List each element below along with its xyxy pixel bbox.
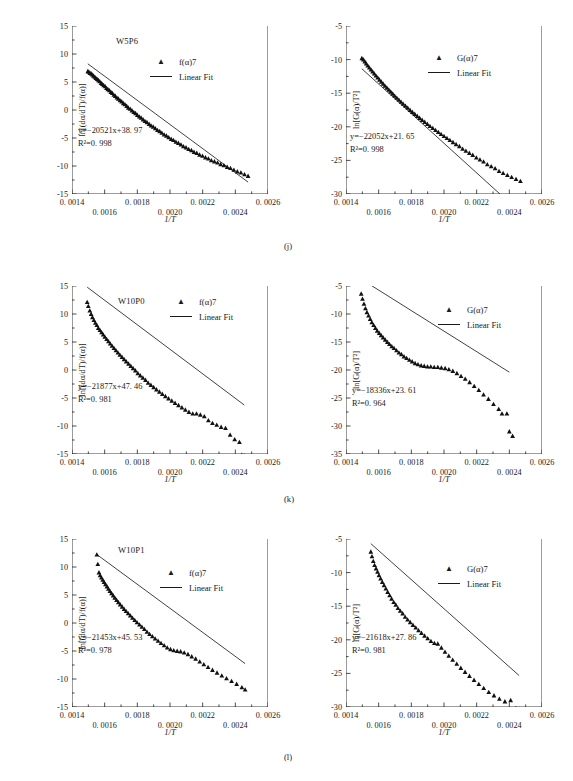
- x-tick-label: 0. 0022: [190, 711, 215, 720]
- legend-label-fit: Linear Fit: [179, 72, 213, 82]
- legend-label-fit: Linear Fit: [467, 579, 501, 589]
- figure-kinetics-plots: ln[(dα/dT)/f(α)] 1/T W5P6 ▲ f(α)7 Linear…: [0, 0, 573, 781]
- sample-label: W10P0: [118, 296, 145, 306]
- plot-area: ln[G(α)/T²] 1/T ▲ G(α)7 Linear Fit y=−18…: [346, 286, 542, 454]
- x-tick-label: 0. 0018: [125, 198, 150, 207]
- legend-item-fit: Linear Fit: [428, 65, 491, 80]
- y-tick-label: -25: [331, 394, 342, 403]
- sample-label: W5P6: [116, 36, 138, 46]
- y-axis-label: ln[(dα/dT)/f(α)]: [78, 26, 92, 194]
- y-tick-label: -5: [61, 647, 68, 656]
- legend-item-fit: Linear Fit: [438, 576, 501, 591]
- x-tick-label: 0. 0022: [464, 458, 489, 467]
- y-axis-label: ln[(dα/dT)/f(α)]: [78, 286, 92, 454]
- legend: ▲ G(α)7 Linear Fit: [438, 302, 501, 332]
- triangle-marker-icon: ▲: [438, 306, 460, 314]
- panel-j-left: ln[(dα/dT)/f(α)] 1/T W5P6 ▲ f(α)7 Linear…: [16, 12, 286, 262]
- line-swatch-icon: [438, 583, 460, 584]
- x-tick-label: 0. 0014: [60, 711, 85, 720]
- triangle-marker-icon: ▲: [428, 54, 450, 62]
- fit-equation: y=−22052x+21. 65: [350, 130, 414, 143]
- plot-area: ln[(dα/dT)/f(α)] 1/T W10P0 ▲ f(α)7 Linea…: [72, 286, 268, 454]
- plot-area: ln[(dα/dT)/f(α)] 1/T W10P1 ▲ f(α)7 Linea…: [72, 539, 268, 707]
- legend-label-fit: Linear Fit: [467, 320, 501, 330]
- x-tick-label: 0. 0022: [464, 711, 489, 720]
- y-tick-label: -10: [57, 675, 68, 684]
- legend: ▲ f(α)7 Linear Fit: [160, 565, 223, 595]
- y-tick-label: -10: [331, 310, 342, 319]
- panel-caption-l: (l): [284, 752, 292, 762]
- y-tick-label: 5: [64, 591, 68, 600]
- y-tick-label: -10: [57, 422, 68, 431]
- x-tick-label: 0. 0016: [366, 468, 391, 477]
- plot-area: ln[G(α)/T²] 1/T ▲ G(α)7 Linear Fit y=−22…: [346, 26, 542, 194]
- x-tick-label: 0. 0020: [158, 721, 183, 730]
- triangle-marker-icon: ▲: [438, 565, 460, 573]
- y-tick-label: -15: [331, 602, 342, 611]
- y-tick-label: -25: [331, 156, 342, 165]
- plot-area: ln[(dα/dT)/f(α)] 1/T W5P6 ▲ f(α)7 Linear…: [72, 26, 268, 194]
- legend-label-series: G(α)7: [457, 53, 478, 63]
- panel-k-left: ln[(dα/dT)/f(α)] 1/T W10P0 ▲ f(α)7 Linea…: [16, 272, 286, 522]
- legend: ▲ G(α)7 Linear Fit: [438, 561, 501, 591]
- legend: ▲ f(α)7 Linear Fit: [150, 54, 213, 84]
- y-axis-label: ln[G(α)/T²]: [352, 539, 366, 707]
- panel-k-right: ln[G(α)/T²] 1/T ▲ G(α)7 Linear Fit y=−18…: [290, 272, 560, 522]
- fit-r-squared: R²=0. 978: [78, 644, 142, 657]
- fit-annotation: y=−21618x+27. 86 R²=0. 981: [352, 631, 416, 657]
- x-tick-label: 0. 0026: [530, 711, 555, 720]
- legend-label-series: f(α)7: [179, 57, 196, 67]
- y-tick-label: -20: [331, 122, 342, 131]
- panel-caption-k: (k): [284, 494, 294, 504]
- x-tick-label: 0. 0016: [92, 208, 117, 217]
- x-tick-label: 0. 0018: [125, 458, 150, 467]
- fit-equation: y=−20521x+38. 97: [78, 124, 142, 137]
- sample-label: W10P1: [118, 545, 145, 555]
- x-tick-label: 0. 0014: [334, 711, 359, 720]
- triangle-marker-icon: ▲: [160, 569, 182, 577]
- y-tick-label: -5: [335, 282, 342, 291]
- x-tick-label: 0. 0024: [497, 721, 522, 730]
- legend-label-series: f(α)7: [189, 568, 206, 578]
- x-tick-label: 0. 0014: [334, 458, 359, 467]
- legend-label-series: G(α)7: [467, 564, 488, 574]
- fit-r-squared: R²=0. 981: [352, 644, 416, 657]
- x-tick-label: 0. 0024: [497, 208, 522, 217]
- y-tick-label: 0: [64, 619, 68, 628]
- fit-r-squared: R²=0. 998: [78, 137, 142, 150]
- chart-canvas: [72, 26, 268, 194]
- y-tick-label: -5: [335, 535, 342, 544]
- x-tick-label: 0. 0026: [256, 711, 281, 720]
- x-tick-label: 0. 0020: [432, 208, 457, 217]
- y-tick-label: -10: [57, 162, 68, 171]
- panel-caption-j: (j): [284, 241, 292, 251]
- x-tick-label: 0. 0020: [158, 208, 183, 217]
- x-tick-label: 0. 0020: [158, 468, 183, 477]
- plot-area: ln[G(α)/T²] 1/T ▲ G(α)7 Linear Fit y=−21…: [346, 539, 542, 707]
- x-tick-label: 0. 0024: [223, 721, 248, 730]
- fit-equation: y=−21877x+47. 46: [78, 380, 142, 393]
- x-tick-label: 0. 0016: [92, 721, 117, 730]
- panel-l-right: ln[G(α)/T²] 1/T ▲ G(α)7 Linear Fit y=−21…: [290, 525, 560, 775]
- y-tick-label: -10: [331, 55, 342, 64]
- x-tick-label: 0. 0024: [223, 208, 248, 217]
- x-tick-label: 0. 0016: [366, 721, 391, 730]
- legend-item-fit: Linear Fit: [150, 69, 213, 84]
- y-tick-label: 5: [64, 78, 68, 87]
- legend-label-fit: Linear Fit: [189, 583, 223, 593]
- fit-r-squared: R²=0. 964: [352, 397, 416, 410]
- fit-annotation: y=−20521x+38. 97 R²=0. 998: [78, 124, 142, 150]
- y-tick-label: 15: [60, 282, 68, 291]
- y-tick-label: -15: [331, 338, 342, 347]
- y-tick-label: 0: [64, 366, 68, 375]
- x-tick-label: 0. 0020: [432, 721, 457, 730]
- y-tick-label: 5: [64, 338, 68, 347]
- legend-item-series: ▲ f(α)7: [170, 294, 233, 309]
- x-tick-label: 0. 0026: [256, 198, 281, 207]
- line-swatch-icon: [160, 587, 182, 588]
- y-tick-label: -20: [331, 635, 342, 644]
- x-tick-label: 0. 0014: [334, 198, 359, 207]
- y-axis-label: ln[(dα/dT)/f(α)]: [78, 539, 92, 707]
- legend-item-series: ▲ f(α)7: [160, 565, 223, 580]
- fit-annotation: y=−18336x+23. 61 R²=0. 964: [352, 384, 416, 410]
